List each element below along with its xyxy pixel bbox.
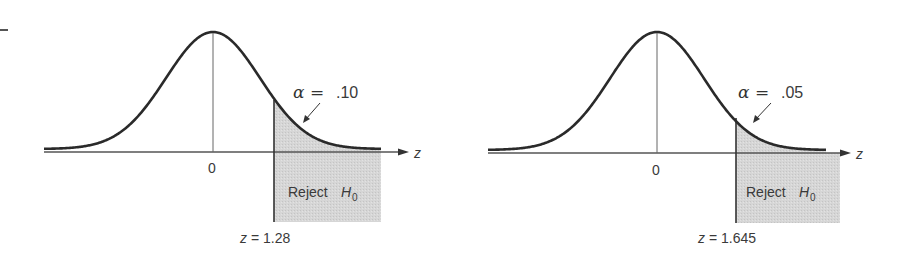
reject-label: Reject	[288, 184, 328, 200]
alpha-value: .10	[336, 84, 358, 101]
alpha-symbol: α =	[738, 82, 769, 102]
alpha-symbol: α =	[293, 82, 324, 102]
alpha-pointer	[306, 103, 320, 119]
tick-label-zero: 0	[652, 162, 660, 178]
critical-value-label: z = 1.28	[239, 230, 290, 246]
alpha-value: .05	[781, 84, 803, 101]
axis-arrow-icon	[840, 150, 851, 157]
panel-alpha-10: z 0 α = .10 Reject H 0 z = 1.28	[44, 32, 421, 246]
hypothesis-subscript: 0	[810, 192, 816, 203]
critical-value-label: z = 1.645	[697, 230, 756, 246]
axis-label-z: z	[413, 145, 421, 161]
hypothesis-symbol: H	[341, 184, 352, 200]
axis-arrow-icon	[398, 149, 409, 156]
tick-label-zero: 0	[208, 160, 216, 176]
axis-label-z: z	[855, 146, 863, 162]
hypothesis-symbol: H	[799, 184, 810, 200]
figure-canvas: z 0 α = .10 Reject H 0 z = 1.28 z 0 α = …	[0, 0, 902, 264]
panel-alpha-05: z 0 α = .05 Reject H 0 z = 1.645	[488, 32, 863, 246]
hypothesis-subscript: 0	[352, 192, 358, 203]
alpha-pointer	[756, 103, 771, 119]
reject-label: Reject	[746, 184, 786, 200]
